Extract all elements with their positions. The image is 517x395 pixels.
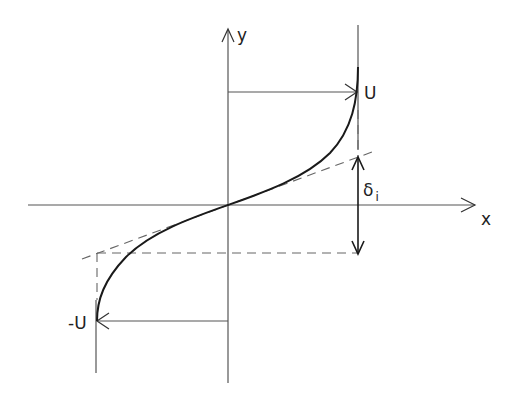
upper-velocity-arrow [228,84,357,100]
y-axis-label: y [237,25,247,45]
x-axis [28,198,475,212]
thickness-label: δi [363,180,379,204]
thickness-symbol: δ [363,180,373,200]
upper-velocity-label: U [364,83,376,103]
thickness-subscript: i [375,190,378,204]
x-axis-label: x [481,209,491,229]
velocity-profile-diagram: y x U -U δi [0,0,517,395]
lower-velocity-arrow [97,313,228,329]
lower-velocity-label: -U [68,313,87,333]
